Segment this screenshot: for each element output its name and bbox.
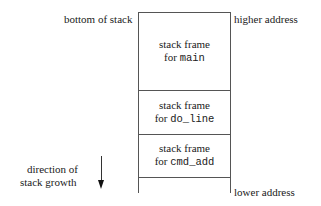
frame-title: stack frame: [159, 142, 210, 155]
frame-owner: for main: [164, 51, 205, 65]
frame-owner: for do_line: [155, 112, 215, 126]
function-name: do_line: [170, 113, 214, 125]
frame-prefix: for: [164, 51, 180, 63]
higher-address-label: higher address: [234, 13, 298, 25]
bottom-of-stack-label: bottom of stack: [64, 13, 132, 25]
frame-title: stack frame: [159, 99, 210, 112]
arrowhead-icon: [98, 180, 104, 189]
stack-diagram: stack frame for main stack frame for do_…: [138, 12, 231, 193]
function-name: cmd_add: [170, 156, 214, 168]
frame-title: stack frame: [159, 38, 210, 51]
stack-frame-cmd-add: stack frame for cmd_add: [139, 134, 230, 178]
lower-address-label: lower address: [234, 186, 295, 198]
stack-frame-main: stack frame for main: [139, 13, 230, 91]
direction-label-line2: stack growth: [20, 176, 77, 188]
function-name: main: [180, 52, 205, 64]
frame-prefix: for: [155, 155, 171, 167]
frame-prefix: for: [155, 112, 171, 124]
stack-frame-do-line: stack frame for do_line: [139, 90, 230, 135]
direction-label-line1: direction of: [27, 163, 78, 175]
frame-owner: for cmd_add: [155, 155, 215, 169]
